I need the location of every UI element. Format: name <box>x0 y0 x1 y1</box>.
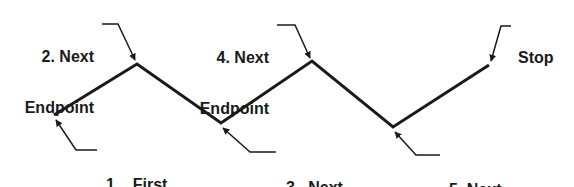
label-5-line1: 5. Next <box>449 181 518 187</box>
zigzag-polyline <box>54 61 489 127</box>
leader-arrow-5 <box>395 132 440 155</box>
label-stop: Stop <box>518 15 554 100</box>
label-endpoint-5: 5. Next Endpoint <box>449 147 518 187</box>
label-4-line1: 4. Next <box>196 49 269 66</box>
label-2-line1: 2. Next <box>20 48 94 65</box>
label-4-line2: Endpoint <box>196 100 269 117</box>
label-endpoint-2: 2. Next Endpoint <box>20 14 94 150</box>
label-stop-line1: Stop <box>518 49 554 66</box>
leader-arrow-stop <box>491 26 511 61</box>
leader-arrow-4 <box>277 25 310 58</box>
label-2-line2: Endpoint <box>20 99 94 116</box>
leader-arrow-2 <box>102 24 135 60</box>
polyline-endpoint-diagram: 1. First Endpoint 2. Next Endpoint 3. Ne… <box>0 0 574 187</box>
label-first-endpoint: 1. First Endpoint <box>106 142 175 187</box>
label-endpoint-4: 4. Next Endpoint <box>196 15 269 151</box>
label-endpoint-3: 3. Next Endpoint <box>286 145 355 187</box>
label-3-line1: 3. Next <box>286 179 355 187</box>
label-1-line1: 1. First <box>106 176 175 187</box>
